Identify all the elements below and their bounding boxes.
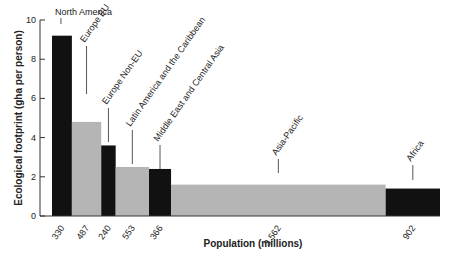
bar-europe-eu <box>72 122 101 216</box>
region-label: Latin America and the Caribbean <box>124 15 207 128</box>
ecological-footprint-chart: 0246810 3304872405533663,562902 North Am… <box>0 0 451 263</box>
y-tick-label: 6 <box>31 93 36 103</box>
y-tick-label: 10 <box>26 15 36 25</box>
y-tick-label: 2 <box>31 172 36 182</box>
region-label: Africa <box>404 139 425 164</box>
region-label: Middle East and Central Asia <box>151 43 225 143</box>
x-tick-label: 330 <box>50 223 67 241</box>
bar-europe-non-eu <box>101 145 115 216</box>
bar-middle-east-and-central-asia <box>149 169 171 216</box>
x-axis-title: Population (millions) <box>204 238 303 249</box>
region-label: Europe Non-EU <box>100 48 145 106</box>
bar-africa <box>386 189 440 216</box>
region-label: Asia-Pacific <box>270 112 305 157</box>
x-tick-label: 487 <box>74 223 91 241</box>
x-tick-label: 366 <box>148 223 165 241</box>
x-tick-label: 902 <box>401 223 418 241</box>
bar-asia-pacific <box>171 185 386 216</box>
y-axis: 0246810 <box>26 15 45 221</box>
y-tick-label: 0 <box>31 211 36 221</box>
x-tick-label: 553 <box>120 223 137 241</box>
y-tick-label: 4 <box>31 133 36 143</box>
bars <box>52 36 440 216</box>
x-tick-label: 240 <box>96 223 113 241</box>
y-tick-label: 8 <box>31 54 36 64</box>
bar-north-america <box>52 36 72 216</box>
bar-latin-america-and-the-caribbean <box>116 167 149 216</box>
y-axis-title: Ecological footprint (gha per person) <box>13 30 24 206</box>
